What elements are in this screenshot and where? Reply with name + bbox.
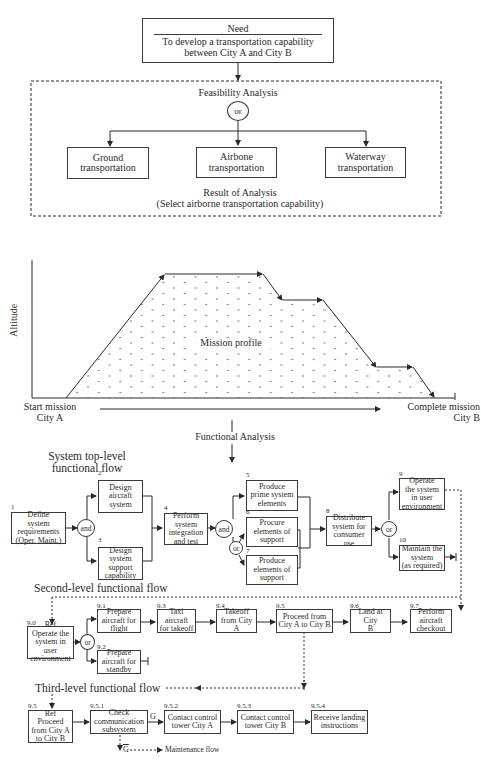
block-checkout: Perform aircraft checkout bbox=[410, 609, 452, 633]
block-maintain-system: Maintain the system (as required) bbox=[399, 545, 445, 571]
block-define-requirements: Define system requirements (Oper. Maint.… bbox=[11, 512, 66, 544]
block-1-number: 1 bbox=[11, 504, 15, 511]
block-9-5-3-number: 9.5.3 bbox=[237, 703, 251, 710]
block-proceed: Proceed from City A to City B bbox=[276, 609, 333, 633]
block-distribute: Distribute system for consumer use bbox=[326, 516, 372, 546]
block-operate-system: Operate the system in user environment bbox=[399, 478, 445, 510]
result-of-analysis: Result of Analysis (Select airborne tran… bbox=[120, 188, 360, 209]
need-title: Need bbox=[154, 23, 321, 35]
or-gate-1: or bbox=[229, 541, 243, 555]
top-level-title: System top-level functional flow bbox=[32, 450, 142, 474]
airborne-transportation-option: Airbone transportation bbox=[196, 147, 277, 178]
block-prepare-standby: Prepare aircraft for standby bbox=[97, 650, 141, 674]
feasibility-title: Feasibility Analysis bbox=[158, 88, 318, 99]
block-check-comm: Check communication subsystem bbox=[90, 710, 148, 734]
functional-analysis-label: Functional Analysis bbox=[180, 432, 290, 443]
block-design-support: Design system support capability bbox=[98, 547, 143, 580]
need-text: To develop a transportation capability b… bbox=[162, 36, 313, 58]
block-ref-proceed: Ref Proceed from City A to City B bbox=[28, 710, 73, 743]
maintenance-flow-label: Maintenance flow bbox=[165, 745, 219, 754]
block-procure-support: Procure elements of support bbox=[246, 517, 298, 547]
block-4-number: 4 bbox=[164, 505, 168, 512]
block-receive-landing: Receive landing instructions bbox=[311, 710, 368, 734]
block-9-5-2-number: 9.5.2 bbox=[164, 703, 178, 710]
block-9-5-4-number: 9.5.4 bbox=[311, 703, 325, 710]
second-level-title: Second-level functional flow bbox=[34, 582, 214, 594]
block-design-aircraft: Design aircraft system bbox=[98, 480, 143, 513]
system-engineering-diagram: Need To develop a transportation capabil… bbox=[0, 0, 481, 768]
block-ref-operate: Ref Operate the system in user environme… bbox=[27, 626, 74, 659]
ground-transportation-option: Ground transportation bbox=[67, 147, 149, 179]
block-7-number: 7 bbox=[246, 548, 250, 555]
or-gate-feasibility: or bbox=[227, 101, 249, 121]
block-taxi: Taxi aircraft for takeoff bbox=[157, 609, 196, 633]
block-contact-tower-b: Contact control tower City B bbox=[237, 710, 294, 734]
block-10-number: 10 bbox=[399, 537, 406, 544]
block-produce-support: Produce elements of support bbox=[246, 555, 298, 585]
go-label: G bbox=[150, 712, 156, 721]
block-6-number: 6 bbox=[246, 509, 250, 516]
and-gate-2: and bbox=[215, 520, 233, 538]
complete-mission-label: Complete mission City B bbox=[382, 402, 480, 423]
altitude-axis-label: Altitude bbox=[9, 300, 20, 340]
and-gate-1: and bbox=[77, 519, 95, 537]
block-prepare-flight: Prepare aircraft for flight bbox=[97, 609, 141, 633]
need-box: Need To develop a transportation capabil… bbox=[142, 18, 334, 63]
nogo-label: G bbox=[123, 745, 129, 754]
waterway-transportation-option: Waterway transportation bbox=[325, 147, 406, 178]
block-contact-tower-a: Contact control tower City A bbox=[164, 710, 221, 734]
block-produce-prime: Produce prime system elements bbox=[246, 480, 298, 511]
block-land: Land at City B bbox=[350, 609, 391, 633]
block-3-number: 3 bbox=[98, 537, 102, 544]
block-takeoff: Takeoff from City A bbox=[216, 609, 257, 633]
third-level-title: Third-level functional flow bbox=[35, 682, 170, 694]
start-mission-label: Start mission City A bbox=[2, 402, 98, 423]
block-5-number: 5 bbox=[246, 472, 250, 479]
or-gate-second-level: or bbox=[80, 634, 95, 650]
mission-profile-label: Mission profile bbox=[186, 338, 276, 349]
block-integration-test: Perform system integration and test bbox=[164, 513, 208, 545]
or-gate-2: or bbox=[381, 521, 397, 537]
block-2-number: 2 bbox=[98, 470, 102, 477]
